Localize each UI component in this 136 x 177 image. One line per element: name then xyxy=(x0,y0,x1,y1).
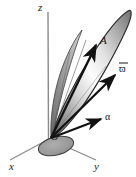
vector-label-alpha: α xyxy=(105,112,110,122)
axis-label-x: x xyxy=(9,161,14,172)
origin-label: O xyxy=(51,132,58,142)
axis-label-z: z xyxy=(38,2,42,13)
vector-label-A: A xyxy=(100,35,107,46)
axis-label-y: y xyxy=(94,161,99,172)
vector-label-omega: ϖ xyxy=(119,64,126,74)
z-axis xyxy=(48,12,49,139)
figure-canvas: z x y O A ϖ α xyxy=(0,0,136,177)
diagram-svg xyxy=(0,0,136,177)
